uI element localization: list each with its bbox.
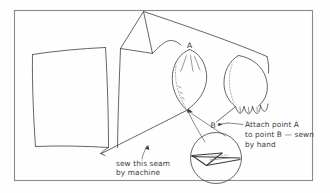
cuff-panel: [32, 48, 108, 148]
figure-border: [15, 11, 313, 181]
sewing-diagram-figure: A B sew this seam by m: [0, 0, 330, 193]
fingers-piece: [217, 56, 269, 123]
machine-seam-line: [102, 111, 187, 154]
machine-seam-annotation: sew this seam by machine: [116, 145, 170, 177]
diagram-canvas: A B sew this seam by m: [0, 0, 330, 193]
machine-seam-line2: by machine: [116, 168, 161, 177]
machine-seam-line1: sew this seam: [116, 159, 170, 168]
hand-seam-line3: by hand: [245, 140, 276, 149]
thumb-piece: [172, 50, 206, 111]
hand-seam-line1: Attach point A: [245, 120, 299, 129]
body-outline: [101, 12, 268, 156]
point-a-label: A: [187, 41, 193, 50]
hand-seam-annotation: Attach point A to point B — sewn by hand: [228, 120, 314, 149]
point-b-arrow: [218, 123, 228, 126]
hand-seam-line2: to point B — sewn: [245, 130, 314, 139]
